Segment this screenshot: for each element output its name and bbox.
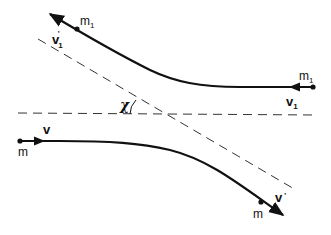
diagonal-asymptote — [38, 39, 296, 190]
label-v-prime: v' — [275, 190, 286, 205]
particle-m1-initial — [310, 84, 315, 89]
label-m-left: m — [18, 145, 28, 159]
label-chi: χ — [119, 97, 130, 113]
particle-m-initial — [17, 138, 22, 143]
particle-m1-final — [74, 26, 79, 31]
horizontal-asymptote — [18, 113, 316, 115]
label-m1-right: m1 — [299, 69, 314, 85]
label-m1-upper: m1 — [80, 14, 95, 30]
scattering-diagram: m1 v1' m1 v1 χ v m m v' — [0, 0, 331, 235]
label-v: v — [43, 122, 51, 137]
particle-m-final — [258, 199, 263, 204]
angle-chi-arc — [130, 100, 136, 114]
label-v1: v1 — [286, 94, 298, 111]
trajectory-m — [20, 141, 283, 215]
label-v1-prime: v1' — [52, 29, 63, 50]
label-m-lower: m — [253, 207, 263, 221]
